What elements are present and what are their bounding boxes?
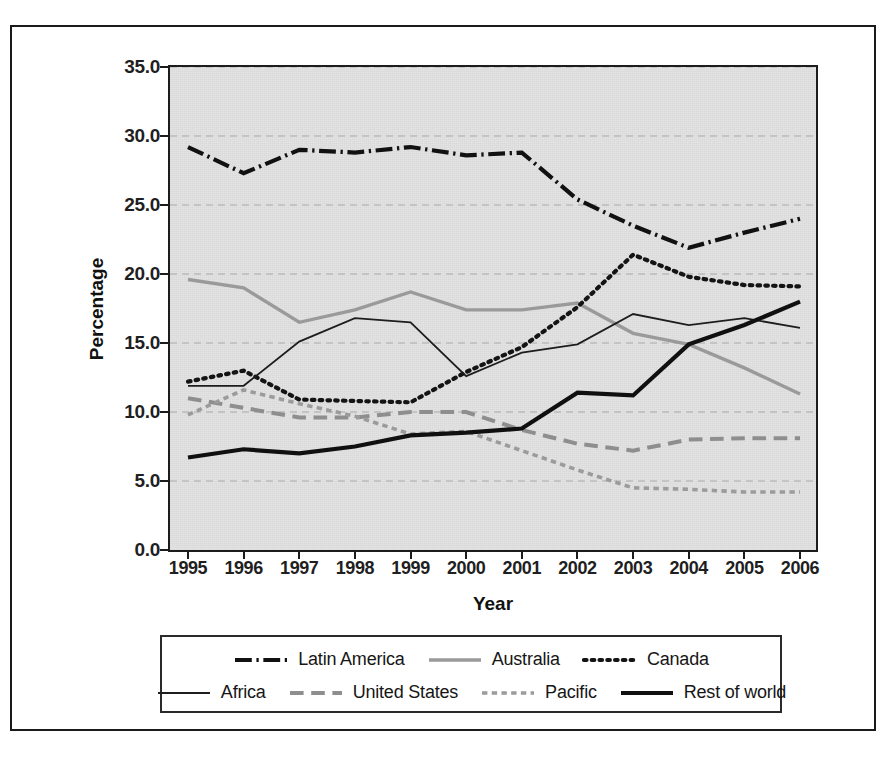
y-tick-label: 25.0 xyxy=(96,194,160,216)
chart-legend: Latin AmericaAustraliaCanadaAfricaUnited… xyxy=(160,635,782,713)
x-axis-title: Year xyxy=(168,593,818,615)
legend-swatch-solid xyxy=(427,653,483,667)
x-tick-label: 1999 xyxy=(391,558,429,579)
x-tick-label: 1998 xyxy=(336,558,374,579)
y-tick-label: 5.0 xyxy=(96,470,160,492)
legend-swatch-short-dash xyxy=(480,686,536,700)
x-axis-tick-labels: 1995199619971998199920002001200220032004… xyxy=(168,558,818,586)
series-line-canada xyxy=(188,255,800,403)
legend-item-latin-america[interactable]: Latin America xyxy=(233,649,404,670)
x-tick-label: 1996 xyxy=(224,558,262,579)
series-line-pacific xyxy=(188,390,800,492)
legend-swatch-dotted xyxy=(582,653,638,667)
legend-label: Rest of world xyxy=(684,682,786,703)
legend-label: Latin America xyxy=(298,649,404,670)
y-tick-label: 0.0 xyxy=(96,539,160,561)
legend-item-rest-of-world[interactable]: Rest of world xyxy=(619,682,786,703)
y-tick-label: 15.0 xyxy=(96,332,160,354)
x-tick-label: 2003 xyxy=(614,558,652,579)
y-axis-title-wrap: Percentage xyxy=(72,65,92,552)
y-tick-label: 20.0 xyxy=(96,263,160,285)
legend-row: Latin AmericaAustraliaCanada xyxy=(162,643,780,676)
legend-label: Australia xyxy=(492,649,560,670)
x-tick-label: 2004 xyxy=(669,558,707,579)
x-tick-label: 1995 xyxy=(169,558,207,579)
plot-area xyxy=(168,65,818,552)
legend-item-pacific[interactable]: Pacific xyxy=(480,682,597,703)
legend-label: United States xyxy=(353,682,458,703)
legend-swatch-solid xyxy=(156,686,212,700)
legend-label: Pacific xyxy=(545,682,597,703)
series-line-latin-america xyxy=(188,147,800,248)
legend-item-canada[interactable]: Canada xyxy=(582,649,709,670)
figure-frame: Percentage 0.05.010.015.020.025.030.035.… xyxy=(10,25,876,731)
legend-swatch-solid xyxy=(619,686,675,700)
legend-item-africa[interactable]: Africa xyxy=(156,682,266,703)
x-tick-label: 2005 xyxy=(725,558,763,579)
legend-label: Africa xyxy=(221,682,266,703)
y-axis-tick-labels: 0.05.010.015.020.025.030.035.0 xyxy=(90,65,160,552)
series-line-rest-of-world xyxy=(188,302,800,458)
x-tick-label: 2000 xyxy=(447,558,485,579)
legend-item-united-states[interactable]: United States xyxy=(288,682,458,703)
legend-label: Canada xyxy=(647,649,709,670)
y-tick-label: 30.0 xyxy=(96,125,160,147)
legend-row: AfricaUnited StatesPacificRest of world xyxy=(162,676,780,709)
y-tick-label: 10.0 xyxy=(96,401,160,423)
series-line-united-states xyxy=(188,398,800,450)
x-tick-label: 2002 xyxy=(558,558,596,579)
x-tick-label: 2001 xyxy=(503,558,541,579)
legend-item-australia[interactable]: Australia xyxy=(427,649,560,670)
y-tick-label: 35.0 xyxy=(96,56,160,78)
x-tick-label: 1997 xyxy=(280,558,318,579)
plot-svg xyxy=(170,67,816,550)
legend-swatch-long-dash xyxy=(288,686,344,700)
line-chart: Percentage 0.05.010.015.020.025.030.035.… xyxy=(12,27,878,733)
x-tick-label: 2006 xyxy=(781,558,819,579)
legend-swatch-dash-dot xyxy=(233,653,289,667)
series-line-africa xyxy=(188,314,800,386)
